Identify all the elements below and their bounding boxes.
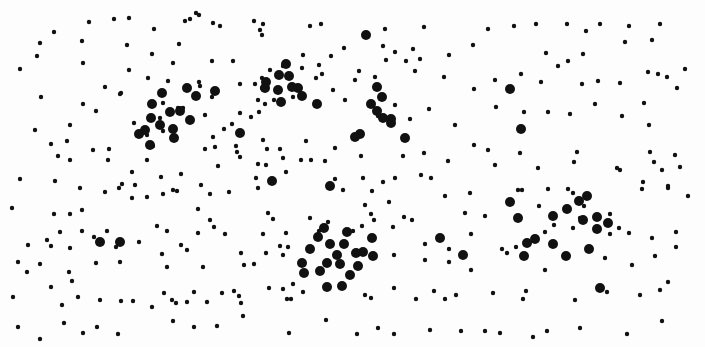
small-dot (414, 297, 418, 301)
small-dot (170, 298, 174, 302)
large-dot (530, 234, 540, 244)
small-dot (234, 144, 238, 148)
large-dot (147, 99, 157, 109)
small-dot (650, 236, 654, 240)
small-dot (537, 204, 541, 208)
small-dot (326, 220, 330, 224)
small-dot (324, 318, 328, 322)
small-dot (608, 212, 612, 216)
large-dot (312, 99, 322, 109)
small-dot (152, 27, 156, 31)
small-dot (539, 80, 543, 84)
small-dot (38, 262, 42, 266)
large-dot (325, 181, 335, 191)
small-dot (404, 59, 408, 63)
small-dot (392, 253, 396, 257)
small-dot (183, 19, 187, 23)
small-dot (333, 146, 337, 150)
small-dot (98, 298, 102, 302)
small-dot (519, 72, 523, 76)
small-dot (647, 123, 651, 127)
small-dot (429, 176, 433, 180)
large-dot (305, 244, 315, 254)
small-dot (401, 154, 405, 158)
small-dot (471, 43, 475, 47)
small-dot (177, 42, 181, 46)
large-dot (319, 223, 329, 233)
small-dot (314, 76, 318, 80)
small-dot (329, 54, 333, 58)
small-dot (630, 263, 634, 267)
small-dot (220, 291, 224, 295)
small-dot (373, 75, 377, 79)
small-dot (179, 243, 183, 247)
small-dot (192, 325, 196, 329)
small-dot (443, 194, 447, 198)
small-dot (658, 288, 662, 292)
small-dot (252, 19, 256, 23)
small-dot (203, 113, 207, 117)
large-dot (358, 247, 368, 257)
large-dot (182, 83, 192, 93)
large-dot (339, 239, 349, 249)
small-dot (238, 111, 242, 115)
small-dot (422, 151, 426, 155)
small-dot (427, 107, 431, 111)
large-dot (435, 233, 445, 243)
small-dot (256, 162, 260, 166)
small-dot (393, 103, 397, 107)
small-dot (593, 102, 597, 106)
small-dot (556, 64, 560, 68)
small-dot (70, 279, 74, 283)
small-dot (118, 92, 122, 96)
small-dot (94, 261, 98, 265)
small-dot (91, 148, 95, 152)
small-dot (304, 139, 308, 143)
small-dot (281, 287, 285, 291)
small-dot (658, 22, 662, 26)
small-dot (387, 200, 391, 204)
small-dot (320, 72, 324, 76)
large-dot (350, 132, 360, 142)
small-dot (419, 173, 423, 177)
small-dot (16, 325, 20, 329)
large-dot (168, 124, 178, 134)
small-dot (432, 289, 436, 293)
large-dot (584, 244, 594, 254)
large-dot (322, 282, 332, 292)
small-dot (81, 102, 85, 106)
small-dot (201, 265, 205, 269)
large-dot (367, 233, 377, 243)
small-dot (544, 51, 548, 55)
small-dot (674, 245, 678, 249)
small-dot (333, 177, 337, 181)
large-dot (337, 281, 347, 291)
large-dot (169, 133, 179, 143)
small-dot (418, 57, 422, 61)
small-dot (308, 216, 312, 220)
small-dot (393, 50, 397, 54)
small-dot (239, 301, 243, 305)
small-dot (355, 332, 359, 336)
small-dot (571, 191, 575, 195)
large-dot (592, 224, 602, 234)
small-dot (301, 290, 305, 294)
small-dot (162, 291, 166, 295)
small-dot (56, 154, 60, 158)
small-dot (252, 262, 256, 266)
small-dot (678, 165, 682, 169)
large-dot (115, 237, 125, 247)
small-dot (231, 59, 235, 63)
small-dot (566, 187, 570, 191)
small-dot (638, 293, 642, 297)
small-dot (393, 176, 397, 180)
small-dot (323, 159, 327, 163)
large-dot (582, 191, 592, 201)
small-dot (391, 225, 395, 229)
small-dot (522, 110, 526, 114)
small-dot (38, 337, 42, 341)
small-dot (11, 295, 15, 299)
small-dot (543, 230, 547, 234)
small-dot (469, 232, 473, 236)
small-dot (568, 112, 572, 116)
